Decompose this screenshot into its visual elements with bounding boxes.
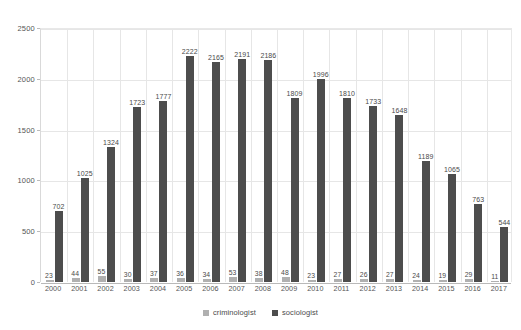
bar-criminologist-2001[interactable]: 44 [72, 278, 80, 282]
bar-sociologist-2005[interactable]: 2222 [186, 56, 194, 282]
bar-value-label: 48 [281, 269, 289, 276]
bar-sociologist-2003[interactable]: 1723 [133, 107, 141, 282]
bar-value-label: 1809 [287, 90, 303, 97]
legend-swatch-sociologist [272, 310, 278, 316]
bar-sociologist-2001[interactable]: 1025 [81, 178, 89, 282]
chart-legend: criminologistsociologist [0, 308, 521, 317]
bar-value-label: 2191 [234, 51, 250, 58]
bar-criminologist-2013[interactable]: 27 [386, 279, 394, 282]
bar-value-label: 1777 [155, 93, 171, 100]
bar-value-label: 1648 [391, 107, 407, 114]
bar-criminologist-2009[interactable]: 48 [282, 277, 290, 282]
bar-value-label: 23 [307, 272, 315, 279]
bar-criminologist-2011[interactable]: 27 [334, 279, 342, 282]
x-axis-tick-label: 2012 [360, 284, 376, 293]
bar-group: 481809 [277, 29, 303, 282]
bar-group: 271810 [329, 29, 355, 282]
bar-value-label: 702 [53, 203, 65, 210]
bar-group: 241189 [408, 29, 434, 282]
legend-item-sociologist[interactable]: sociologist [272, 308, 318, 317]
bar-sociologist-2008[interactable]: 2186 [264, 60, 272, 282]
x-axis-tick-label: 2015 [438, 284, 454, 293]
bar-sociologist-2011[interactable]: 1810 [343, 98, 351, 282]
bar-value-label: 1996 [313, 71, 329, 78]
bar-group: 11544 [487, 29, 513, 282]
bar-sociologist-2014[interactable]: 1189 [422, 161, 430, 282]
x-axis-tick-label: 2008 [255, 284, 271, 293]
bar-sociologist-2017[interactable]: 544 [500, 227, 508, 282]
bar-sociologist-2010[interactable]: 1996 [317, 79, 325, 282]
legend-label: sociologist [282, 308, 318, 317]
bar-sociologist-2002[interactable]: 1324 [107, 147, 115, 282]
bar-sociologist-2013[interactable]: 1648 [395, 115, 403, 282]
bar-sociologist-2000[interactable]: 702 [55, 211, 63, 282]
bar-value-label: 11 [491, 273, 498, 280]
bar-value-label: 1025 [77, 170, 93, 177]
bar-criminologist-2005[interactable]: 36 [177, 278, 185, 282]
x-axis-tick-label: 2005 [176, 284, 192, 293]
bar-value-label: 36 [176, 270, 184, 277]
bar-group: 261733 [356, 29, 382, 282]
bar-group: 382186 [251, 29, 277, 282]
bar-value-label: 1723 [129, 99, 145, 106]
x-axis-tick-label: 2011 [334, 284, 350, 293]
bar-criminologist-2007[interactable]: 53 [229, 277, 237, 282]
bar-sociologist-2012[interactable]: 1733 [369, 106, 377, 282]
bar-criminologist-2004[interactable]: 37 [150, 278, 158, 282]
bar-group: 231996 [303, 29, 329, 282]
bar-group: 532191 [225, 29, 251, 282]
bar-group: 271648 [382, 29, 408, 282]
bar-value-label: 2165 [208, 54, 224, 61]
bar-sociologist-2004[interactable]: 1777 [159, 101, 167, 282]
bar-criminologist-2000[interactable]: 23 [46, 280, 54, 282]
bar-group: 441025 [67, 29, 93, 282]
x-axis-tick-label: 2013 [386, 284, 402, 293]
legend-item-criminologist[interactable]: criminologist [203, 308, 256, 317]
bar-sociologist-2009[interactable]: 1809 [291, 98, 299, 282]
bar-criminologist-2003[interactable]: 30 [124, 279, 132, 282]
bar-value-label: 763 [472, 196, 484, 203]
bar-group: 551324 [93, 29, 119, 282]
bar-sociologist-2016[interactable]: 763 [474, 204, 482, 282]
bar-sociologist-2015[interactable]: 1065 [448, 174, 456, 282]
bar-criminologist-2008[interactable]: 38 [255, 278, 263, 282]
bar-value-label: 53 [229, 269, 237, 276]
bar-criminologist-2012[interactable]: 26 [360, 279, 368, 282]
plot-area: 2370244102555132430172337177736222234216… [40, 28, 512, 282]
bar-value-label: 1733 [365, 98, 381, 105]
bar-criminologist-2015[interactable]: 19 [439, 280, 447, 282]
y-axis-tick-label: 2000 [18, 74, 36, 83]
bar-value-label: 2222 [182, 48, 198, 55]
legend-label: criminologist [213, 308, 256, 317]
y-axis-tick-mark [37, 282, 40, 283]
bar-criminologist-2010[interactable]: 23 [308, 280, 316, 282]
bar-criminologist-2014[interactable]: 24 [413, 280, 421, 282]
bar-criminologist-2017[interactable]: 11 [491, 281, 499, 282]
bar-value-label: 2186 [260, 52, 276, 59]
y-axis-tick-label: 500 [22, 227, 35, 236]
y-axis-tick-label: 0 [31, 278, 35, 287]
x-axis-tick-label: 2009 [281, 284, 297, 293]
x-axis-tick-label: 2003 [124, 284, 140, 293]
bar-value-label: 1189 [418, 153, 433, 160]
bar-value-label: 29 [465, 271, 473, 278]
x-axis-tick-label: 2010 [307, 284, 323, 293]
bar-chart: 05001000150020002500 2370244102555132430… [0, 0, 521, 330]
bar-value-label: 27 [386, 271, 394, 278]
bar-sociologist-2006[interactable]: 2165 [212, 62, 220, 282]
bar-criminologist-2006[interactable]: 34 [203, 279, 211, 282]
bar-value-label: 23 [45, 272, 53, 279]
bar-group: 191065 [434, 29, 460, 282]
bar-value-label: 30 [124, 271, 132, 278]
x-axis-tick-label: 2004 [150, 284, 166, 293]
bar-sociologist-2007[interactable]: 2191 [238, 59, 246, 282]
x-axis-tick-label: 2000 [45, 284, 61, 293]
bar-criminologist-2002[interactable]: 55 [98, 276, 106, 282]
bar-value-label: 55 [98, 268, 106, 275]
bar-value-label: 27 [334, 271, 342, 278]
bar-value-label: 38 [255, 270, 263, 277]
y-axis-tick-label: 2500 [18, 24, 36, 33]
bar-group: 301723 [120, 29, 146, 282]
bar-criminologist-2016[interactable]: 29 [465, 279, 473, 282]
bar-group: 23702 [41, 29, 67, 282]
